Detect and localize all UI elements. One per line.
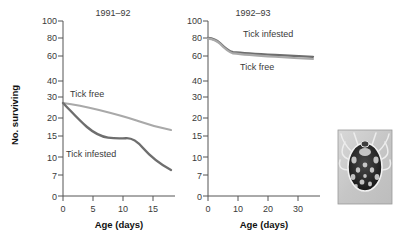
x-axis-title-2: Age (days): [240, 219, 289, 230]
x-axis-title-1: Age (days): [95, 219, 144, 230]
figure-container: No. surviving 1991–92 100 80 60 40 30 20…: [0, 0, 402, 238]
y2-tick-label-40: 40: [192, 76, 202, 86]
y-tick-label-40: 40: [47, 76, 57, 86]
survival-figure: No. surviving 1991–92 100 80 60 40 30 20…: [0, 0, 402, 238]
y-tick-label-20: 20: [47, 113, 57, 123]
x-tick-label-1-10: 10: [118, 204, 128, 214]
y2-tick-label-0: 0: [197, 192, 202, 202]
x-tick-marks-2: [208, 196, 298, 201]
y2-tick-label-10: 10: [192, 153, 202, 163]
y-tick-label-7: 7: [52, 171, 57, 181]
y-axis-title-text: No. surviving: [9, 85, 20, 145]
y-tick-marks: [58, 21, 63, 196]
tick-capitulum: [361, 141, 369, 147]
y-tick-label-30: 30: [47, 92, 57, 102]
y2-tick-label-80: 80: [192, 33, 202, 43]
series-label-tick-infested-1991: Tick infested: [66, 149, 116, 159]
y-tick-label-10: 10: [47, 153, 57, 163]
tick-photograph: [338, 130, 392, 204]
y-axis-title: No. surviving: [9, 85, 20, 145]
curve-tick-free-1991: [63, 103, 171, 130]
y2-tick-label-30: 30: [192, 92, 202, 102]
curve-tick-infested-1991: [63, 103, 171, 170]
series-label-tick-infested-1992: Tick infested: [243, 29, 293, 39]
x-tick-label-1-5: 5: [90, 204, 95, 214]
y2-tick-label-15: 15: [192, 131, 202, 141]
series-label-tick-free-1992: Tick free: [240, 62, 274, 72]
x-tick-label-2-20: 20: [263, 204, 273, 214]
panel-1991-92-title: 1991–92: [95, 8, 130, 18]
x-tick-label-1-15: 15: [148, 204, 158, 214]
x-tick-label-1-0: 0: [60, 204, 65, 214]
series-label-tick-free-1991: Tick free: [70, 89, 104, 99]
panel-1992-93: 1992–93 100 80 60 40 30 20 15 10 7 0: [187, 8, 320, 230]
y2-tick-label-20: 20: [192, 113, 202, 123]
panel-1992-93-title: 1992–93: [235, 8, 270, 18]
x-tick-label-2-30: 30: [293, 204, 303, 214]
y-tick-label-0: 0: [52, 192, 57, 202]
y2-tick-label-7: 7: [197, 171, 202, 181]
y-tick-label-100: 100: [42, 16, 57, 26]
y-tick-label-15: 15: [47, 131, 57, 141]
y2-tick-label-60: 60: [192, 51, 202, 61]
y-tick-label-60: 60: [47, 51, 57, 61]
y-tick-label-80: 80: [47, 33, 57, 43]
x-tick-label-2-0: 0: [205, 204, 210, 214]
panel-1991-92: 1991–92 100 80 60 40 30 20 15 10 7 0: [42, 8, 175, 230]
y-tick-marks-2: [203, 21, 208, 196]
x-tick-label-2-10: 10: [233, 204, 243, 214]
y2-tick-label-100: 100: [187, 16, 202, 26]
x-tick-marks-1: [63, 196, 153, 201]
